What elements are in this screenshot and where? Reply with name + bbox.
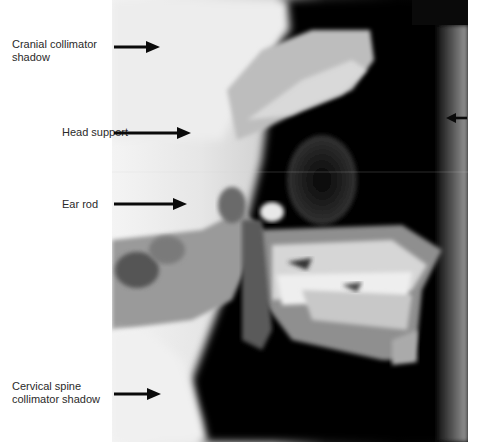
figure: Cranial collimator shadow Head support E… bbox=[0, 0, 480, 446]
arrow-right-edge-icon bbox=[446, 113, 467, 123]
arrows-overlay bbox=[0, 0, 480, 446]
arrow-cervical-spine-collimator-icon bbox=[114, 388, 161, 400]
arrow-head-support-icon bbox=[114, 127, 191, 139]
arrow-cranial-collimator-icon bbox=[114, 41, 160, 53]
arrow-ear-rod-icon bbox=[114, 198, 187, 210]
